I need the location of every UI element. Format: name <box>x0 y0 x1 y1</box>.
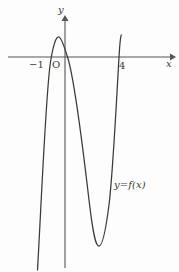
graph-figure: −1 O 4 x y y=f(x) <box>0 0 179 272</box>
y-axis-arrow <box>62 15 69 21</box>
function-curve <box>38 35 122 270</box>
function-curve-label: y=f(x) <box>114 180 146 190</box>
plot-canvas <box>0 0 179 272</box>
origin-label: O <box>52 60 60 70</box>
x-tick-label-neg1: −1 <box>29 60 44 70</box>
x-tick-label-four: 4 <box>119 61 126 71</box>
x-axis-label: x <box>166 59 172 69</box>
y-axis-label: y <box>58 5 64 15</box>
